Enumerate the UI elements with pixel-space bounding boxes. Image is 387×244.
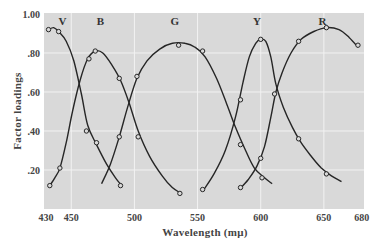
y-tick-label: .40 — [28, 126, 41, 137]
data-point-v — [84, 129, 88, 133]
data-point-y — [259, 37, 263, 41]
data-point-g — [176, 43, 180, 47]
data-point-v — [56, 29, 60, 33]
y-tick-label: 1.00 — [23, 9, 41, 20]
x-tick-label: 430 — [39, 212, 54, 223]
data-point-b — [178, 191, 182, 195]
band-label-g: G — [171, 15, 180, 27]
data-point-b — [48, 183, 52, 187]
data-point-r — [272, 92, 276, 96]
x-tick-label: 600 — [253, 212, 268, 223]
x-tick-label: 500 — [127, 212, 142, 223]
plot-area — [44, 13, 364, 209]
data-point-b — [93, 49, 97, 53]
x-tick-label: 550 — [190, 212, 205, 223]
data-point-y — [200, 187, 204, 191]
data-point-v — [118, 183, 122, 187]
data-point-r — [259, 156, 263, 160]
data-point-y — [238, 98, 242, 102]
y-axis-label: Factor loadings — [11, 72, 23, 150]
data-point-y — [296, 137, 300, 141]
data-point-y — [324, 172, 328, 176]
data-point-r — [296, 39, 300, 43]
band-label-y: Y — [253, 15, 261, 27]
data-point-r — [356, 43, 360, 47]
x-tick-label: 450 — [64, 212, 79, 223]
band-label-r: R — [319, 15, 328, 27]
band-label-b: B — [97, 15, 105, 27]
data-point-b — [58, 166, 62, 170]
y-tick-label: .20 — [28, 165, 41, 176]
data-point-b — [87, 57, 91, 61]
data-point-g — [135, 74, 139, 78]
x-tick-label: 680 — [354, 212, 369, 223]
data-point-g — [200, 49, 204, 53]
data-point-g — [260, 176, 264, 180]
y-tick-label: .80 — [28, 48, 41, 59]
y-axis-ticks: .20.40.60.801.00 — [23, 9, 41, 176]
x-tick-label: 650 — [316, 212, 331, 223]
x-axis-label: Wavelength (mμ) — [162, 226, 248, 239]
data-point-g — [117, 135, 121, 139]
data-point-g — [238, 142, 242, 146]
data-point-r — [238, 185, 242, 189]
data-point-v — [94, 141, 98, 145]
data-point-v — [46, 27, 50, 31]
band-label-v: V — [58, 15, 66, 27]
data-point-b — [117, 76, 121, 80]
factor-loadings-chart: VBGYR .20.40.60.801.00 43045050055060065… — [0, 0, 387, 244]
x-axis-ticks: 430450500550600650680 — [39, 212, 370, 223]
data-point-b — [136, 135, 140, 139]
y-tick-label: .60 — [28, 87, 41, 98]
